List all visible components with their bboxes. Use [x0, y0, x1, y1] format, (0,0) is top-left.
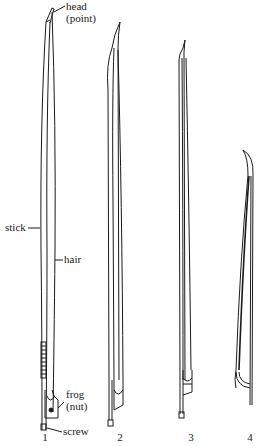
label-point: (point)	[66, 13, 96, 24]
label-frog: frog	[66, 389, 84, 400]
bow-3-drawing	[179, 40, 192, 418]
bow-illustrations	[0, 0, 270, 446]
bow-4-drawing	[235, 150, 253, 405]
figure-number-1: 1	[39, 432, 51, 443]
label-hair: hair	[64, 254, 81, 265]
label-stick: stick	[5, 222, 26, 233]
label-head: head	[66, 1, 87, 12]
bow-1-drawing	[28, 6, 65, 432]
figure-number-4: 4	[244, 432, 256, 443]
label-screw: screw	[63, 426, 89, 437]
figure-number-2: 2	[114, 432, 126, 443]
figure-number-3: 3	[185, 432, 197, 443]
label-nut: (nut)	[66, 401, 87, 412]
bow-2-drawing	[108, 22, 124, 426]
